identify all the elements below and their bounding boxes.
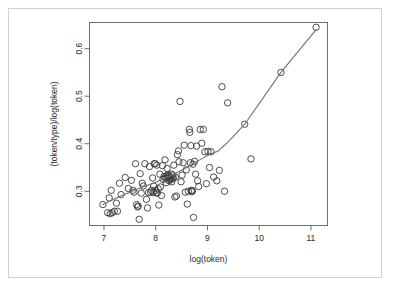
y-tick-label-0.4: 0.4 [75,138,85,150]
data-point [248,156,254,162]
data-point [156,202,162,208]
data-point [132,161,138,167]
data-point [216,167,222,173]
data-point [122,174,128,180]
data-point [116,180,122,186]
data-point [108,187,114,193]
data-point [128,177,134,183]
data-point [177,98,183,104]
scatter-data-points [100,24,320,222]
data-point [219,83,225,89]
data-point [192,171,198,177]
x-axis-title: log(token) [190,254,228,264]
data-point [143,196,149,202]
y-axis-tick-marks [85,49,90,192]
x-tick-label-11: 11 [307,233,316,243]
x-tick-label-8: 8 [153,233,158,243]
y-tick-label-0.3: 0.3 [75,185,85,197]
data-point [203,180,209,186]
figure-root: 7891011 0.30.40.50.6 log(token) (token/t… [0,0,393,288]
data-point [190,214,196,220]
data-point [224,100,230,106]
scatter-plot-canvas: 7891011 0.30.40.50.6 log(token) (token/t… [0,0,393,288]
data-point [206,164,212,170]
x-tick-label-9: 9 [205,233,210,243]
data-point [149,175,155,181]
data-point [178,179,184,185]
y-axis-title: (token/type)/log(token) [49,81,59,166]
data-point [175,148,181,154]
y-tick-label-0.5: 0.5 [75,90,85,102]
lowess-fit-curve [103,30,316,205]
x-tick-label-10: 10 [254,233,264,243]
data-point [176,159,182,165]
x-axis-tick-labels: 7891011 [102,233,316,243]
data-point [199,140,205,146]
x-tick-label-7: 7 [102,233,107,243]
data-point [142,161,148,167]
data-point [138,190,144,196]
data-point [180,160,186,166]
data-point [184,201,190,207]
y-axis-tick-labels: 0.30.40.50.6 [75,42,85,197]
data-point [164,165,170,171]
data-point [144,205,150,211]
data-point [181,142,187,148]
data-point [137,170,143,176]
data-point [162,157,168,163]
data-point [221,188,227,194]
plot-panel-border [90,23,328,226]
y-tick-label-0.6: 0.6 [75,42,85,54]
x-axis-tick-marks [104,226,311,231]
data-point [113,200,119,206]
data-point [136,216,142,222]
